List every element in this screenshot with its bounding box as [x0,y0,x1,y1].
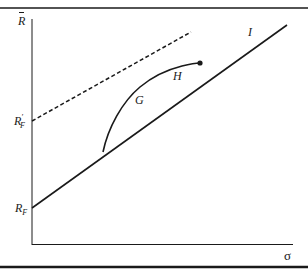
frontier-endpoint-dot [197,60,202,65]
rf-prime-label: R′F [14,114,25,130]
rf-label: RF [15,202,27,217]
y-axis-label: R [18,15,25,27]
line-i-label: I [248,26,252,38]
rf-sub: F [22,208,27,217]
efficient-frontier-curve [103,63,200,152]
r-bar-symbol: R [18,14,25,28]
efficient-frontier-diagram: R R′F RF G H I σ [0,0,308,273]
point-g-label: G [135,94,144,106]
x-axis-label: σ [284,249,291,262]
rf-prime-sub: F [20,121,25,130]
diagram-canvas [0,0,308,273]
borrowing-line-dashed [32,32,191,121]
point-h-label: H [173,70,182,82]
capital-market-line [32,25,287,208]
